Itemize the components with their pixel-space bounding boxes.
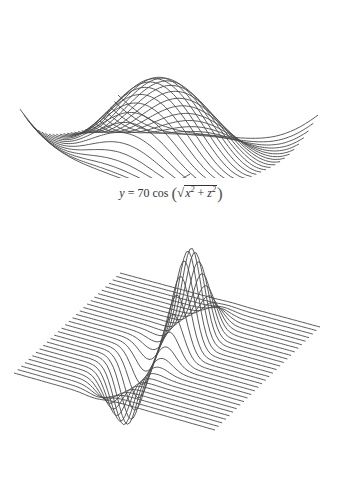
surface-plot-top — [0, 0, 342, 178]
surface-curve — [43, 345, 244, 424]
surface-curve — [32, 356, 233, 412]
surface-plot-bottom — [0, 205, 342, 481]
equation-equals: = — [128, 186, 135, 200]
surface-curve — [120, 273, 320, 327]
surface-curve — [14, 373, 215, 430]
close-paren: ) — [217, 184, 223, 203]
equation-function: cos — [152, 186, 168, 200]
equation-radicand: x2 + z2 — [184, 185, 217, 200]
equation-caption: y = 70 cos (√x2 + z2) — [0, 180, 342, 204]
surface-curve — [29, 359, 230, 416]
exponent-x: 2 — [191, 185, 195, 194]
equation-coefficient: 70 — [137, 186, 149, 200]
exponent-z: 2 — [212, 185, 216, 194]
figure: y = 70 cos (√x2 + z2) — [0, 0, 342, 481]
surface-curve — [78, 81, 266, 170]
plus-op: + — [198, 186, 205, 200]
equation-lhs: y — [119, 186, 124, 200]
